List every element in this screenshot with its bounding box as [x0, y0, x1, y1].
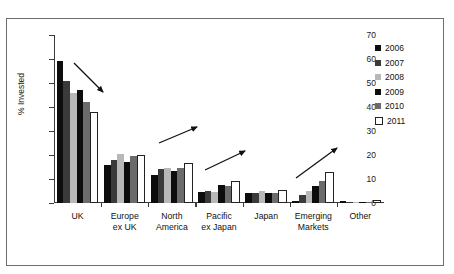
- bar: [158, 169, 165, 203]
- x-axis-label-line: ex Japan: [201, 222, 236, 233]
- y-axis-title: % Invested: [16, 73, 26, 115]
- bar: [299, 195, 306, 203]
- bar: [259, 191, 266, 203]
- plot-area: 010203040506070 UKEuropeex UKNorthAmeric…: [54, 35, 384, 203]
- x-axis-label-line: North: [156, 211, 188, 222]
- bar: [198, 192, 205, 203]
- bar-group: NorthAmerica: [148, 35, 195, 203]
- bar: [292, 201, 299, 203]
- bar: [272, 193, 279, 203]
- bar: [177, 168, 184, 203]
- bar-group: Japan: [243, 35, 290, 203]
- bar: [225, 186, 232, 203]
- x-axis-label: Other: [350, 211, 372, 222]
- legend-label: 2007: [385, 58, 404, 68]
- legend-swatch: [375, 117, 383, 125]
- x-axis-label-line: America: [156, 222, 188, 233]
- x-axis-label-line: Other: [350, 211, 372, 222]
- bar: [319, 181, 326, 203]
- bar: [151, 175, 158, 203]
- bar: [124, 162, 131, 203]
- bar-groups: UKEuropeex UKNorthAmericaPacificex Japan…: [54, 35, 384, 203]
- bar: [104, 165, 111, 203]
- bar: [340, 201, 347, 203]
- bar: [245, 193, 252, 203]
- bar: [57, 61, 64, 203]
- bar: [312, 186, 319, 203]
- x-axis-tick: [101, 203, 102, 207]
- bar: [137, 155, 146, 203]
- bar: [218, 185, 225, 203]
- x-axis-tick: [195, 203, 196, 207]
- bar: [164, 168, 171, 203]
- legend-swatch: [375, 60, 381, 66]
- bar: [130, 156, 137, 203]
- legend-label: 2011: [387, 116, 405, 126]
- legend-swatch: [375, 89, 381, 95]
- bar: [211, 192, 218, 203]
- x-axis-label-line: Emerging: [295, 211, 332, 222]
- bar: [366, 202, 373, 203]
- x-axis-label: UK: [72, 211, 84, 222]
- bar: [278, 190, 287, 203]
- x-axis-label-line: ex UK: [111, 222, 139, 233]
- bar: [111, 160, 118, 203]
- bar: [171, 171, 178, 203]
- x-axis-label: Pacificex Japan: [201, 211, 236, 233]
- bar: [252, 193, 259, 203]
- bar: [353, 202, 360, 203]
- y-axis-tick: [49, 203, 54, 204]
- x-axis-label-line: UK: [72, 211, 84, 222]
- x-axis-label-line: Markets: [295, 222, 332, 233]
- bar: [373, 200, 382, 203]
- legend-item[interactable]: 2007: [375, 56, 431, 71]
- x-axis-label-line: Japan: [254, 211, 278, 222]
- x-axis-tick: [148, 203, 149, 207]
- bar: [83, 102, 90, 203]
- bar: [205, 191, 212, 203]
- x-axis-tick: [337, 203, 338, 207]
- legend: 200620072008200920102011: [375, 41, 431, 128]
- x-axis-tick: [243, 203, 244, 207]
- bar-group: EmergingMarkets: [290, 35, 337, 203]
- bar: [77, 90, 84, 203]
- legend-swatch: [375, 103, 381, 109]
- legend-label: 2008: [385, 72, 404, 82]
- bar: [306, 191, 313, 203]
- legend-item[interactable]: 2008: [375, 70, 431, 85]
- bar-group: UK: [54, 35, 101, 203]
- bar: [90, 112, 99, 203]
- bar: [117, 154, 124, 203]
- x-axis-label-line: Europe: [111, 211, 139, 222]
- legend-label: 2009: [385, 87, 404, 97]
- x-axis-label: EmergingMarkets: [295, 211, 332, 233]
- legend-label: 2010: [385, 101, 404, 111]
- bar: [359, 202, 366, 203]
- bar: [346, 202, 353, 203]
- legend-label: 2006: [385, 43, 404, 53]
- legend-swatch: [375, 74, 381, 80]
- x-axis-label-line: Pacific: [201, 211, 236, 222]
- legend-item[interactable]: 2010: [375, 99, 431, 114]
- bar-group: Europeex UK: [101, 35, 148, 203]
- x-axis-tick: [290, 203, 291, 207]
- bar: [265, 193, 272, 203]
- chart-frame: % Invested 010203040506070 UKEuropeex UK…: [6, 18, 444, 266]
- bar-group: Pacificex Japan: [195, 35, 242, 203]
- legend-item[interactable]: 2006: [375, 41, 431, 56]
- x-axis-label: Japan: [254, 211, 278, 222]
- x-axis-label: Europeex UK: [111, 211, 139, 233]
- x-axis-label: NorthAmerica: [156, 211, 188, 233]
- legend-item[interactable]: 2009: [375, 85, 431, 100]
- bar: [70, 93, 77, 203]
- bar: [63, 81, 70, 203]
- legend-item[interactable]: 2011: [375, 114, 431, 129]
- bar: [325, 172, 334, 203]
- bar: [184, 163, 193, 203]
- legend-swatch: [375, 45, 381, 51]
- bar: [231, 181, 240, 203]
